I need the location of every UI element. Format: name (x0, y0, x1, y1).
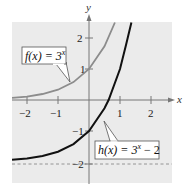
y-axis-label: y (85, 1, 91, 13)
y-tick-label: −1 (72, 125, 84, 137)
x-tick-label: −1 (50, 107, 62, 119)
h-label: h(x) = 3x − 2 (98, 142, 160, 157)
y-tick-label: 2 (77, 32, 83, 44)
x-tick-label: 2 (148, 107, 154, 119)
x-tick-label: 1 (117, 107, 123, 119)
f-label: f(x) = 3x (25, 48, 66, 63)
y-tick-label: −2 (72, 158, 84, 170)
x-axis-label: x (176, 93, 182, 105)
y-axis-arrow-icon (87, 14, 92, 21)
x-tick-label: −2 (19, 107, 31, 119)
chart-canvas: x y −2 −1 1 2 2 1 −1 −2 f(x) = 3x (0, 0, 188, 192)
